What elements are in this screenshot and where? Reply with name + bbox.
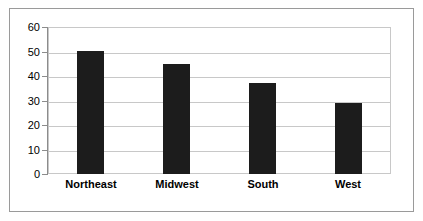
x-axis-category-label: West	[305, 178, 391, 191]
bar	[77, 51, 104, 174]
y-axis-tick-label: 10	[6, 145, 40, 156]
y-axis-tick-mark	[42, 52, 47, 53]
x-axis-category-labels: NortheastMidwestSouthWest	[48, 178, 391, 196]
y-axis-tick-label: 40	[6, 71, 40, 82]
bar-chart-figure: 0102030405060 NortheastMidwestSouthWest	[0, 0, 423, 221]
bars-container	[48, 27, 391, 174]
y-axis-tick-mark	[42, 101, 47, 102]
y-axis-tick-labels: 0102030405060	[0, 0, 40, 221]
x-axis-category-label: Northeast	[48, 178, 134, 191]
y-axis-tick-label: 30	[6, 96, 40, 107]
y-axis-tick-label: 20	[6, 120, 40, 131]
bar	[163, 64, 190, 174]
y-axis-tick-mark	[42, 174, 47, 175]
x-axis-category-label: Midwest	[134, 178, 220, 191]
y-axis-tick-mark	[42, 125, 47, 126]
y-axis-tick-label: 60	[6, 22, 40, 33]
bar	[335, 103, 362, 174]
bar	[249, 83, 276, 174]
y-axis-tick-mark	[42, 76, 47, 77]
y-axis-tick-label: 50	[6, 47, 40, 58]
x-axis-category-label: South	[220, 178, 306, 191]
y-axis-tick-mark	[42, 150, 47, 151]
y-axis-tick-label: 0	[6, 169, 40, 180]
y-axis-tick-mark	[42, 27, 47, 28]
